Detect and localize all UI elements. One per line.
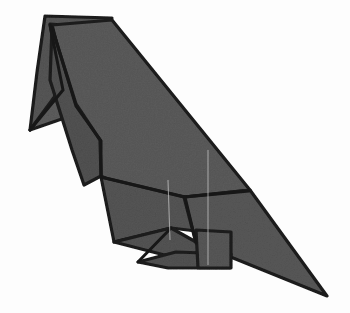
origami-raven-illustration bbox=[0, 0, 350, 313]
paper-face-leg-block bbox=[196, 230, 231, 268]
origami-figure-container: A folded origami bird resembling a raven… bbox=[0, 0, 350, 313]
